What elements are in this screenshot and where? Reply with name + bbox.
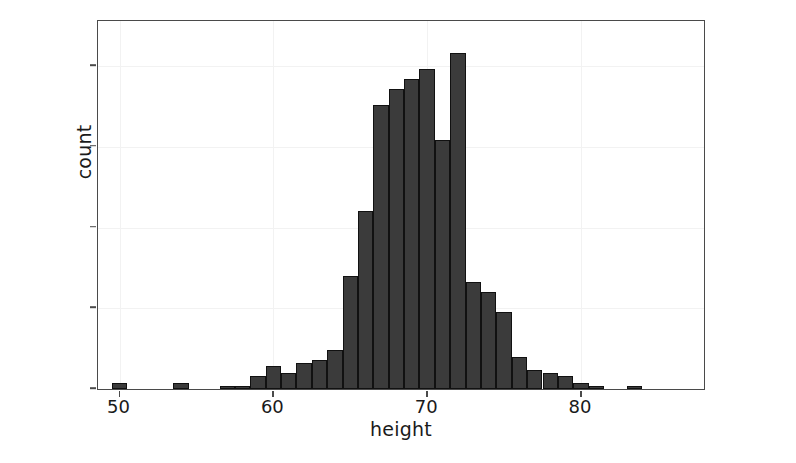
x-axis-label: height	[97, 418, 705, 440]
x-tick-label: 80	[550, 396, 610, 418]
x-tick-label: 50	[89, 396, 149, 418]
x-tick-label: 70	[396, 396, 456, 418]
x-axis-ticks: 50607080	[0, 0, 796, 463]
histogram-figure: count 0255075100 50607080 height	[0, 0, 796, 463]
x-tick-label: 60	[242, 396, 302, 418]
